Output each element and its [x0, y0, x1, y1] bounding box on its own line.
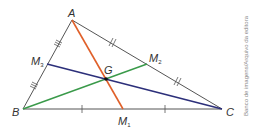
- triangle-diagram: A B C G M1 M2 M3: [0, 0, 259, 131]
- label-g: G: [104, 64, 113, 76]
- centroid-point: [104, 77, 108, 81]
- image-credit: Banco de imagens/Arquivo da editora: [243, 16, 249, 116]
- label-c: C: [226, 106, 234, 118]
- median-b-m2: [23, 64, 147, 109]
- label-b: B: [12, 106, 19, 118]
- median-c-m3: [47, 64, 222, 109]
- label-a: A: [67, 7, 75, 19]
- median-a-m1: [72, 20, 123, 109]
- label-m3: M3: [31, 55, 44, 68]
- label-m2: M2: [149, 52, 162, 65]
- label-m1: M1: [118, 115, 131, 128]
